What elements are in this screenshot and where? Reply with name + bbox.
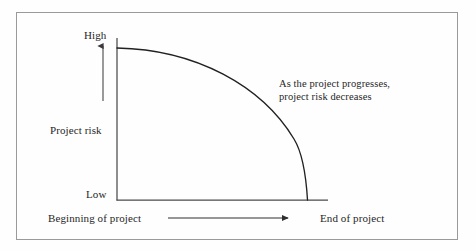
chart-annotation: As the project progresses, project risk … [279, 78, 419, 103]
x-axis-start-label: Beginning of project [48, 212, 141, 225]
risk-curve-figure: High Low Project risk As the project pro… [0, 0, 476, 251]
y-axis-low-label: Low [86, 188, 106, 201]
x-axis-end-label: End of project [320, 212, 384, 225]
risk-decay-curve [117, 48, 308, 200]
y-axis-title: Project risk [50, 124, 102, 137]
y-axis-high-label: High [84, 29, 106, 42]
